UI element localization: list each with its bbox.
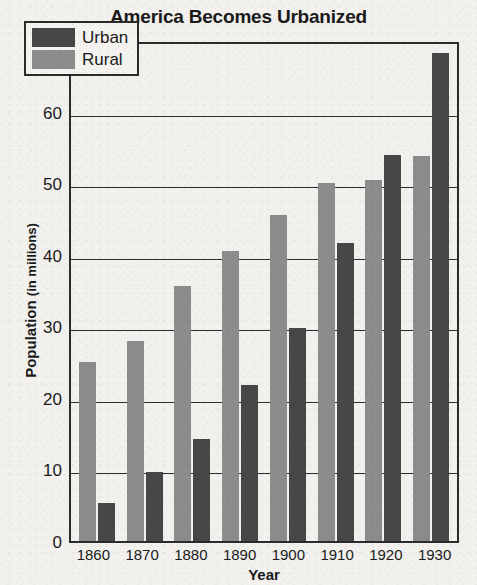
bar-rural-1930 <box>413 156 430 541</box>
bar-rural-1860 <box>79 362 96 541</box>
x-tick-label: 1900 <box>266 546 310 563</box>
legend-label-urban: Urban <box>82 29 128 46</box>
bar-group <box>270 44 306 541</box>
legend-label-rural: Rural <box>82 51 123 68</box>
y-tick-label: 50 <box>14 175 62 195</box>
legend-item-urban: Urban <box>32 28 128 47</box>
bar-rural-1910 <box>318 183 335 541</box>
bar-group <box>127 44 163 541</box>
legend-swatch-urban <box>32 28 75 47</box>
bar-urban-1890 <box>241 385 258 541</box>
y-tick-label: 0 <box>14 533 62 553</box>
x-axis-title: Year <box>69 566 459 583</box>
bar-urban-1900 <box>289 328 306 541</box>
bar-urban-1860 <box>98 503 115 541</box>
legend-swatch-rural <box>32 50 75 69</box>
plot-area <box>69 42 459 543</box>
x-tick-label: 1910 <box>315 546 359 563</box>
bar-group <box>79 44 115 541</box>
x-tick-label: 1870 <box>120 546 164 563</box>
x-tick-label: 1920 <box>364 546 408 563</box>
chart-legend: UrbanRural <box>24 21 139 76</box>
x-tick-label: 1930 <box>413 546 457 563</box>
bar-urban-1930 <box>432 53 449 541</box>
bar-rural-1890 <box>222 251 239 541</box>
y-tick-label: 20 <box>14 390 62 410</box>
bar-group <box>174 44 210 541</box>
bar-rural-1870 <box>127 341 144 541</box>
bar-group <box>413 44 449 541</box>
bar-group <box>318 44 354 541</box>
bar-urban-1870 <box>146 472 163 541</box>
bar-group <box>365 44 401 541</box>
bar-rural-1900 <box>270 215 287 541</box>
x-tick-label: 1890 <box>218 546 262 563</box>
x-tick-label: 1860 <box>71 546 115 563</box>
bar-urban-1920 <box>384 155 401 541</box>
bar-rural-1920 <box>365 180 382 541</box>
x-axis-tick-labels: 18601870188018901900191019201930 <box>69 546 459 568</box>
bar-group <box>222 44 258 541</box>
y-tick-label: 10 <box>14 461 62 481</box>
y-tick-label: 60 <box>14 104 62 124</box>
y-tick-label: 30 <box>14 318 62 338</box>
legend-item-rural: Rural <box>32 50 128 69</box>
y-tick-label: 40 <box>14 247 62 267</box>
bar-rural-1880 <box>174 286 191 541</box>
bar-urban-1910 <box>337 243 354 541</box>
bars-layer <box>71 44 457 541</box>
x-tick-label: 1880 <box>169 546 213 563</box>
bar-chart-figure: America Becomes Urbanized Population (in… <box>0 0 477 585</box>
bar-urban-1880 <box>193 439 210 541</box>
